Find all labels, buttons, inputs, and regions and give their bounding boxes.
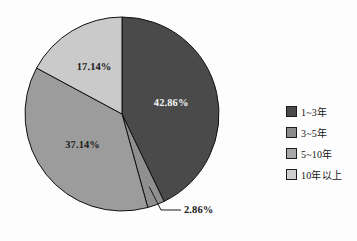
legend-item[interactable]: 10年以上	[286, 164, 357, 185]
chart-legend: 1~3年3~5年5~10年10年以上	[286, 101, 357, 185]
pie-slices-group	[25, 17, 219, 211]
legend-item[interactable]: 3~5年	[286, 122, 357, 143]
legend-color-swatch	[286, 106, 297, 117]
legend-item[interactable]: 1~3年	[286, 101, 357, 122]
legend-color-swatch	[286, 127, 297, 138]
pie-chart-figure: 42.86%2.86%37.14%17.14% 1~3年3~5年5~10年10年…	[0, 0, 357, 241]
pie-chart-plot-area: 42.86%2.86%37.14%17.14%	[0, 0, 250, 241]
legend-item-label: 1~3年	[301, 104, 327, 119]
legend-item[interactable]: 5~10年	[286, 143, 357, 164]
legend-color-swatch	[286, 148, 297, 159]
legend-item-label: 3~5年	[301, 125, 327, 140]
pie-slice-value-label: 17.14%	[77, 62, 112, 73]
pie-slice-value-label: 37.14%	[65, 140, 100, 151]
legend-item-label: 10年以上	[301, 167, 342, 182]
legend-color-swatch	[286, 169, 297, 180]
legend-item-label: 5~10年	[301, 146, 332, 161]
pie-slice-value-label: 42.86%	[154, 97, 189, 108]
pie-slice-value-label-callout: 2.86%	[184, 205, 213, 216]
